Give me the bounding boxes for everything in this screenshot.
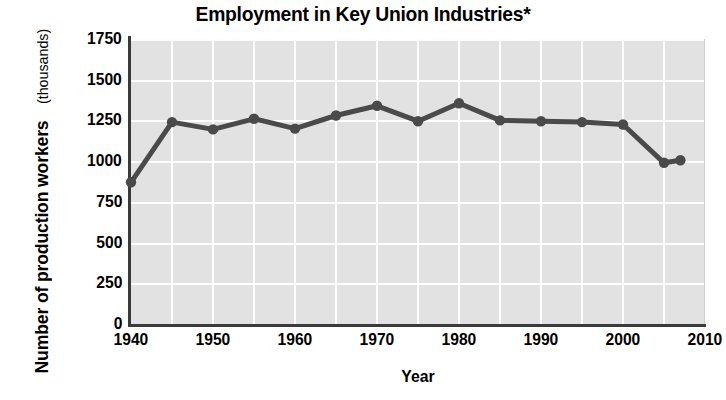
gridline-vertical — [622, 40, 624, 324]
y-axis-tick-label: 750 — [0, 192, 122, 212]
y-axis-tick-label: 1250 — [0, 110, 122, 130]
x-axis-tick-label: 1950 — [173, 330, 253, 350]
gridline-vertical — [499, 40, 501, 324]
x-axis-tick-label: 1940 — [91, 330, 171, 350]
x-axis-label: Year — [131, 367, 705, 387]
x-axis-line — [128, 324, 706, 327]
y-axis-tick-label: 500 — [0, 233, 122, 253]
x-axis-tick-label: 1980 — [419, 330, 499, 350]
x-axis-tick-label: 1990 — [501, 330, 581, 350]
y-axis-line — [128, 36, 131, 327]
gridline-vertical — [458, 40, 460, 324]
y-axis-tick-label: 250 — [0, 273, 122, 293]
gridline-vertical — [663, 40, 665, 324]
gridline-vertical — [376, 40, 378, 324]
chart-title: Employment in Key Union Industries* — [29, 2, 697, 26]
chart-figure: Employment in Key Union Industries* Numb… — [0, 0, 726, 400]
x-axis-tick-label: 2000 — [583, 330, 663, 350]
y-axis-tick-label: 1750 — [0, 29, 122, 49]
gridline-vertical — [540, 40, 542, 324]
y-axis-tick-label: 1500 — [0, 70, 122, 90]
plot-area — [131, 39, 705, 324]
x-axis-tick-label: 2010 — [665, 330, 726, 350]
x-axis-tick-label: 1970 — [337, 330, 417, 350]
y-axis-tick-label: 1000 — [0, 151, 122, 171]
gridline-vertical — [253, 40, 255, 324]
gridline-vertical — [335, 40, 337, 324]
gridline-vertical — [417, 40, 419, 324]
x-axis-tick-label: 1960 — [255, 330, 335, 350]
gridline-vertical — [171, 40, 173, 324]
gridline-vertical — [294, 40, 296, 324]
gridline-vertical — [212, 40, 214, 324]
gridline-vertical — [581, 40, 583, 324]
x-axis-label-text: Year — [401, 367, 434, 387]
